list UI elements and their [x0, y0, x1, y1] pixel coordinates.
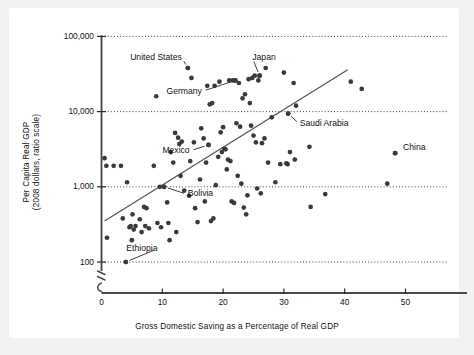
data-point [217, 79, 222, 84]
data-point [288, 150, 293, 155]
data-point [294, 103, 299, 108]
data-point [182, 188, 187, 193]
data-point-ethiopia [123, 260, 128, 265]
x-tick-label-50: 50 [386, 297, 426, 307]
data-point [119, 163, 124, 168]
data-point [167, 238, 172, 243]
data-point [307, 144, 312, 149]
y-tick-label-1000: 1,000 [30, 181, 94, 191]
data-point [198, 177, 203, 182]
y-axis-title: Per Capita Real GDP (2008 dollars, ratio… [22, 114, 43, 210]
data-point [204, 160, 209, 165]
data-point [223, 147, 228, 152]
data-point [263, 66, 268, 71]
data-point [359, 87, 364, 92]
x-tick-label-20: 20 [203, 297, 243, 307]
data-point [248, 101, 253, 106]
leader-line-united-states [184, 61, 186, 64]
data-point [385, 181, 390, 186]
leader-line-japan [254, 61, 258, 72]
data-point [192, 140, 197, 145]
leader-line-bolivia [168, 188, 184, 193]
data-point [171, 160, 176, 165]
x-tick-label-40: 40 [325, 297, 365, 307]
data-point [104, 163, 109, 168]
data-point [120, 216, 125, 221]
data-point [199, 126, 204, 131]
data-point [258, 191, 263, 196]
data-point [105, 235, 110, 240]
data-point [262, 136, 267, 141]
data-point [266, 160, 271, 165]
data-point [282, 70, 287, 75]
data-point [348, 79, 353, 84]
data-point [193, 206, 198, 211]
data-point [179, 139, 184, 144]
annotation-label-japan: Japan [252, 52, 275, 62]
data-point [269, 115, 274, 120]
data-point [308, 205, 313, 210]
annotation-label-germany: Germany [82, 86, 202, 96]
y-axis-title-line-2: (2008 dollars, ratio scale) [32, 114, 43, 210]
x-tick-label-0: 0 [82, 297, 122, 307]
data-point [228, 159, 233, 164]
data-point [189, 76, 194, 81]
data-point-china [393, 151, 398, 156]
data-point [241, 205, 246, 210]
data-point-united-states [185, 66, 190, 71]
data-point [273, 180, 278, 185]
data-point [213, 183, 218, 188]
data-point [166, 221, 171, 226]
data-point [216, 155, 221, 160]
data-point [221, 125, 226, 130]
y-tick-label-100000: 100,000 [30, 31, 94, 41]
data-point [232, 201, 237, 206]
data-point [238, 124, 243, 129]
data-point [254, 140, 259, 145]
annotation-label-saudi-arabia: Saudi Arabia [300, 118, 349, 128]
y-tick-label-100: 100 [30, 257, 94, 267]
data-point-saudi-arabia [286, 111, 291, 116]
data-point [195, 220, 200, 225]
data-point [240, 96, 245, 101]
data-point [278, 162, 283, 167]
data-point [188, 159, 193, 164]
data-point [234, 121, 239, 126]
data-point [292, 157, 297, 162]
data-point [144, 206, 149, 211]
data-point [201, 136, 206, 141]
x-tick-label-10: 10 [142, 297, 182, 307]
data-point [291, 81, 296, 86]
annotation-label-mexico: Mexico [70, 145, 190, 155]
data-point-japan [257, 73, 262, 78]
data-point [130, 212, 135, 217]
data-point [256, 78, 261, 83]
data-point [260, 141, 265, 146]
data-point [151, 163, 156, 168]
data-point [323, 192, 328, 197]
data-point-bolivia [162, 184, 167, 189]
x-tick-label-30: 30 [264, 297, 304, 307]
leader-line-mexico [193, 146, 204, 150]
data-point-mexico [206, 143, 211, 148]
data-point [210, 101, 215, 106]
leader-line-saudi-arabia [291, 116, 297, 121]
data-point [147, 226, 152, 231]
data-point [285, 162, 290, 167]
figure-page: Gross Domestic Saving as a Percentage of… [0, 0, 474, 355]
data-point [165, 200, 170, 205]
y-axis-title-wrapper: Per Capita Real GDP (2008 dollars, ratio… [20, 67, 44, 257]
data-point-germany [233, 78, 238, 83]
data-point [239, 181, 244, 186]
data-point [137, 217, 142, 222]
data-point [102, 156, 107, 161]
data-point [159, 225, 164, 230]
annotation-label-ethiopia: Ethiopia [37, 243, 157, 253]
data-point [155, 221, 160, 226]
data-point [224, 167, 229, 172]
annotation-label-china: China [403, 142, 425, 152]
y-axis-title-line-1: Per Capita Real GDP [22, 114, 33, 210]
axis-break-symbol [98, 271, 106, 292]
data-point [251, 133, 256, 138]
annotation-label-bolivia: Bolivia [188, 188, 213, 198]
